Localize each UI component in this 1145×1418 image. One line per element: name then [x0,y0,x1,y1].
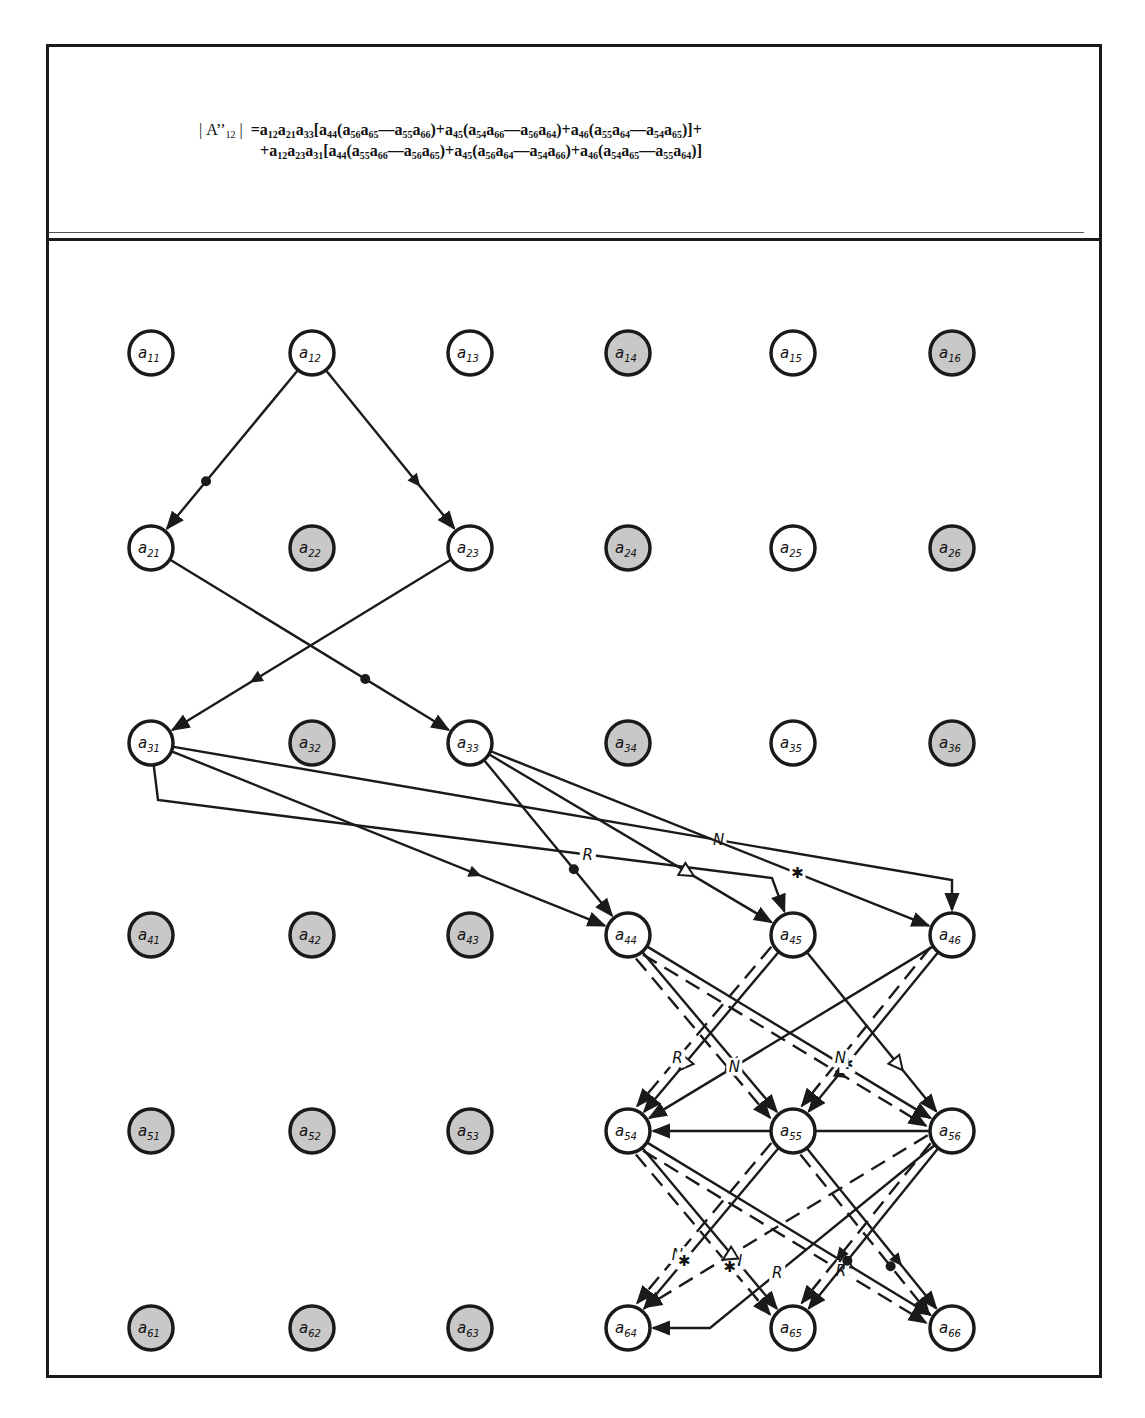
star-marker-icon: ✱ [678,1252,691,1270]
edge-line [154,766,785,912]
node-a54: a54 [606,1109,650,1153]
dot-marker-icon [569,864,579,874]
edge-line [636,1154,770,1314]
edge-line [643,955,926,1126]
edge-a33-a44 [485,761,612,916]
node-a31: a31 [129,721,173,765]
edge-line [800,1155,929,1315]
node-a66: a66 [930,1306,974,1350]
node-a23: a23 [448,526,492,570]
edge-a12-a23 [327,371,455,529]
node-a11: a11 [129,331,173,375]
edge-line [485,761,612,916]
edge-a54-a65: ✱ [636,1154,770,1314]
node-a24: a24 [606,526,650,570]
node-a64: a64 [606,1306,650,1350]
node-a15: a15 [771,331,815,375]
edge-line [491,752,928,926]
edge-a56-a64 [645,1135,928,1307]
node-a21: a21 [129,526,173,570]
edge-a12-a21 [167,371,298,529]
node-a32: a32 [290,721,334,765]
node-a63: a63 [448,1306,492,1350]
node-a35: a35 [771,721,815,765]
node-a34: a34 [606,721,650,765]
node-a16: a16 [930,331,974,375]
edge-label-r: R [672,1049,682,1067]
dot-marker-icon [886,1261,896,1271]
node-a36: a36 [930,721,974,765]
edge-line [636,958,770,1117]
edge-line [643,1151,926,1323]
edge-a31-a45: R [154,766,785,912]
edge-a54-a66: R [643,1151,926,1323]
edge-line [172,752,605,926]
node-a56: a56 [930,1109,974,1153]
node-a53: a53 [448,1109,492,1153]
node-a12: a12 [290,331,334,375]
edge-line [167,371,298,529]
edges-layer: NR✱RRN✱NN✱RN✱R✱ [154,371,952,1328]
node-a46: a46 [930,913,974,957]
edge-line [174,747,952,910]
node-a43: a43 [448,913,492,957]
node-a51: a51 [129,1109,173,1153]
node-a44: a44 [606,913,650,957]
node-a45: a45 [771,913,815,957]
node-a55: a55 [771,1109,815,1153]
edge-a33-a46: ✱ [491,752,928,926]
edge-a31-a44 [172,752,605,926]
node-a61: a61 [129,1306,173,1350]
dot-marker-icon [201,476,211,486]
star-marker-icon: ✱ [791,864,804,882]
edge-label-r: R [583,846,593,864]
dot-marker-icon [360,674,370,684]
node-a41: a41 [129,913,173,957]
edge-label-n: N [729,1058,740,1076]
node-a14: a14 [606,331,650,375]
filled-triangle-marker-icon [247,671,264,688]
node-a65: a65 [771,1306,815,1350]
node-a26: a26 [930,526,974,570]
edge-line [327,371,455,529]
node-a13: a13 [448,331,492,375]
node-a62: a62 [290,1306,334,1350]
node-a25: a25 [771,526,815,570]
node-a42: a42 [290,913,334,957]
edge-line [648,1143,931,1315]
edge-a54-a66 [648,1143,931,1315]
edge-a44-a56 [643,955,926,1126]
filled-triangle-marker-icon [467,866,484,882]
edge-label-n: N [835,1049,846,1067]
matrix-element-graph: NR✱RRN✱NN✱RN✱R✱ a11a12a13a14a15a16a21a22… [0,0,1145,1418]
edge-a55-a66 [800,1155,929,1315]
edge-a31-a46: N [174,747,952,910]
node-a22: a22 [290,526,334,570]
node-a52: a52 [290,1109,334,1153]
edge-a44-a55 [636,958,770,1117]
dot-marker-icon [842,1256,852,1266]
node-a33: a33 [448,721,492,765]
edge-label-r: R [772,1264,782,1282]
edge-line [645,1135,928,1307]
